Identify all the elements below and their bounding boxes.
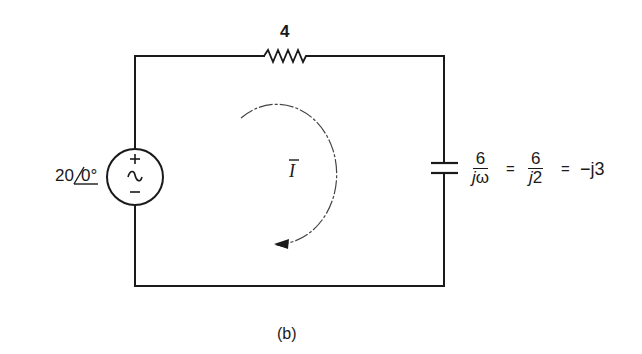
equals-sign-1: = [506,160,515,177]
source-angle-label: 0° [81,166,97,186]
fraction-2-denominator: j2 [526,169,545,187]
fraction-1-denominator: jω [469,169,492,187]
capacitor-fraction-2: 6 j2 [526,150,545,187]
capacitor-fraction-1: 6 jω [469,150,492,187]
resistor-value-label: 4 [280,22,289,42]
resistor-icon [264,50,309,62]
fraction-2-value: 2 [533,168,542,187]
source-magnitude-label: 20 [55,166,74,186]
fraction-2-numerator: 6 [528,150,543,169]
capacitor-impedance-result: −j3 [580,159,605,180]
fraction-1-numerator: 6 [473,150,488,169]
capacitor-icon [431,163,458,173]
ac-source-icon [107,149,163,205]
fraction-1-omega: ω [476,168,489,187]
current-phasor-label: I [289,161,295,182]
equals-sign-2: = [561,160,570,177]
figure-caption: (b) [277,325,297,343]
